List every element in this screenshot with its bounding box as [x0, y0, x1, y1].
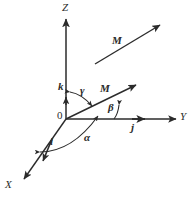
i-unit-vector-label: i: [50, 136, 53, 147]
beta-angle-label: β: [108, 102, 114, 113]
alpha-angle-label: α: [84, 132, 90, 143]
z-axis-label: Z: [62, 2, 68, 13]
k-unit-vector-label: k: [58, 81, 64, 92]
x-axis-line: [24, 119, 66, 179]
x-axis-label: X: [5, 179, 12, 190]
m-vector-at-origin-label: M: [100, 83, 110, 94]
beta-angle-arc: [114, 105, 119, 119]
j-unit-vector-label: j: [131, 122, 134, 133]
m-vector-free-line: [95, 25, 160, 64]
origin-label: 0: [57, 110, 63, 121]
m-vector-free-label: M: [112, 35, 122, 46]
diagram-canvas: [0, 0, 191, 205]
vector-diagram-figure: Z Y X k j i M M γ β α 0: [0, 0, 191, 205]
gamma-angle-label: γ: [80, 85, 85, 96]
y-axis-label: Y: [180, 111, 186, 122]
